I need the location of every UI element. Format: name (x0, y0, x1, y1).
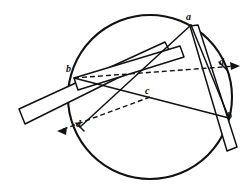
label-point-b-right: b (227, 111, 232, 121)
label-point-d-right: d (219, 57, 224, 67)
arrow-right-icon (230, 62, 240, 70)
label-point-c: c (145, 86, 149, 96)
label-point-d-left: d (76, 119, 81, 129)
geometry-diagram (0, 0, 247, 194)
figure-root: a b c d d b (0, 0, 247, 194)
chord-a-to-b2 (191, 25, 229, 118)
dashed-axis-c-to-d2 (61, 97, 150, 130)
label-point-b-left: b (66, 64, 71, 74)
label-point-a: a (186, 12, 191, 22)
inner-straightedge-bar (74, 46, 184, 90)
arrow-left-icon (57, 127, 67, 135)
